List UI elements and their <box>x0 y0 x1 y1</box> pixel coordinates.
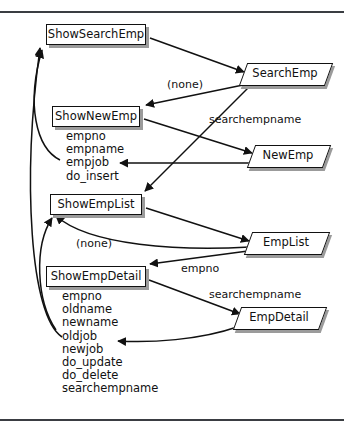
field-item: empjob <box>66 156 124 169</box>
node-showempdetail[interactable]: ShowEmpDetail <box>46 266 146 287</box>
edge-label-searchempname-2: searchempname <box>209 289 301 300</box>
node-emplist-label: EmpList <box>263 237 309 249</box>
edge-label-none-2: (none) <box>76 238 112 249</box>
field-item: newname <box>62 316 158 329</box>
edge-label-searchempname-1: searchempname <box>209 114 301 125</box>
node-shownewemp-label: ShowNewEmp <box>55 111 137 123</box>
node-newemp[interactable]: NewEmp <box>251 145 325 166</box>
field-item: searchempname <box>62 382 158 395</box>
edge-showsearchemp-to-searchemp <box>150 38 244 72</box>
edge-label-empno: empno <box>181 263 219 274</box>
node-searchemp-label: SearchEmp <box>252 68 317 80</box>
node-newemp-label: NewEmp <box>263 150 314 162</box>
field-item: do_insert <box>66 170 124 183</box>
node-empdetail[interactable]: EmpDetail <box>237 307 321 328</box>
node-showempdetail-fields: empno oldname newname oldjob newjob do_u… <box>62 290 158 396</box>
edge-label-none-1: (none) <box>167 79 203 90</box>
node-showemplist-label: ShowEmpList <box>58 199 135 211</box>
node-empdetail-label: EmpDetail <box>249 312 309 324</box>
field-item: oldjob <box>62 330 158 343</box>
edge-showempdetail-to-showsearchemp <box>31 48 62 337</box>
node-emplist[interactable]: EmpList <box>248 232 324 253</box>
node-showemplist[interactable]: ShowEmpList <box>50 194 142 215</box>
node-showsearchemp[interactable]: ShowSearchEmp <box>46 24 146 45</box>
node-shownewemp[interactable]: ShowNewEmp <box>52 106 140 127</box>
diagram-page: ShowSearchEmp ShowNewEmp empno empname e… <box>0 0 344 432</box>
edge-showemplist-to-emplist <box>146 208 249 241</box>
node-searchemp[interactable]: SearchEmp <box>243 63 327 84</box>
node-showsearchemp-label: ShowSearchEmp <box>48 29 144 41</box>
node-showempdetail-label: ShowEmpDetail <box>51 271 142 283</box>
node-shownewemp-fields: empno empname empjob do_insert <box>66 130 124 183</box>
